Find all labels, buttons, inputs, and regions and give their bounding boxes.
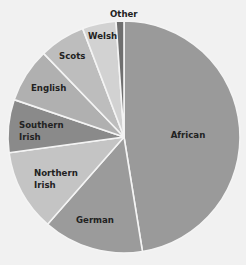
slice-label-welsh: Welsh (88, 31, 117, 41)
pie-chart: AfricanGermanNorthernIrishSouthernIrishE… (0, 0, 246, 265)
slice-label-german: German (76, 215, 114, 225)
slice-label-scots: Scots (59, 51, 85, 61)
pie-chart-svg: AfricanGermanNorthernIrishSouthernIrishE… (0, 0, 246, 265)
slice-label-other: Other (110, 9, 138, 19)
slice-label-african: African (171, 130, 206, 140)
slice-label-english: English (31, 83, 66, 93)
